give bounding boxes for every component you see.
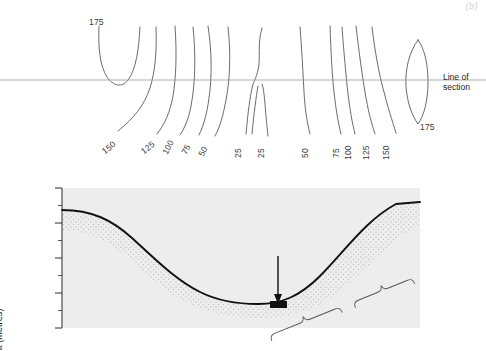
line-of-section-label-line1: Line of — [443, 72, 470, 82]
map-label-100-right: 100 — [343, 145, 353, 160]
river-marker — [270, 301, 287, 308]
contour-175-right — [406, 40, 428, 124]
map-label-150-right: 150 — [381, 145, 391, 160]
contour-175-left — [99, 26, 140, 85]
contour-100-left — [180, 27, 195, 135]
map-label-25-left: 25 — [233, 148, 243, 158]
contour-25-right — [262, 84, 268, 136]
contour-150-left — [118, 27, 156, 131]
y-axis-label: Height (metres) — [0, 308, 4, 351]
contour-25-inner-left — [252, 86, 258, 134]
contour-100-right — [342, 27, 355, 134]
contour-50-left — [215, 27, 230, 136]
map-label-50-right: 50 — [300, 148, 310, 158]
map-label-25-right: 25 — [256, 148, 266, 158]
line-of-section-label-line2: section — [443, 82, 470, 92]
contour-map: 175 175 150 125 100 75 50 25 25 50 75 10… — [0, 0, 486, 176]
cross-section-chart: Height (metres) 0 50 100 150 200 River O… — [0, 176, 486, 351]
line-of-section-label: Line of section — [443, 72, 470, 92]
map-label-175-left: 175 — [89, 17, 104, 27]
contour-75-left — [199, 26, 211, 135]
contour-50-right — [300, 27, 310, 134]
map-label-75-right: 75 — [331, 148, 341, 158]
figure-valley-slope-processes: (b) — [0, 0, 486, 351]
map-label-175-right: 175 — [420, 122, 435, 132]
map-label-125-right: 125 — [361, 145, 371, 160]
